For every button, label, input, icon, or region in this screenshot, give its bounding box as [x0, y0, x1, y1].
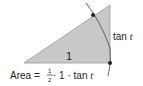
- fraction-denominator: 2: [48, 77, 52, 83]
- fraction-numerator: 1: [48, 68, 52, 74]
- arc-intersection-dot: [91, 13, 95, 17]
- base-label: 1: [66, 50, 72, 62]
- tan-t-label: tan t: [113, 31, 133, 42]
- tangent-point-dot: [108, 61, 112, 65]
- area-formula-prefix: Area =: [10, 70, 40, 81]
- diagram-canvas: 1 tan t Area = 1 2 · 1 · tan t: [0, 0, 143, 86]
- area-formula-rest: · 1 · tan t: [53, 70, 93, 81]
- triangle-diagram: 1 tan t Area = 1 2 · 1 · tan t: [0, 0, 143, 86]
